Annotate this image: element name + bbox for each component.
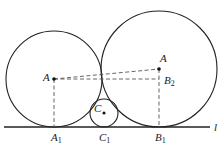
point-A: [52, 77, 56, 81]
label-A: A: [42, 71, 50, 83]
label-C: C: [94, 102, 102, 114]
label-A-right: A: [159, 52, 167, 64]
dashed-A-B: [54, 69, 159, 79]
tangent-circles-diagram: A A C A1 C1 B1 B2 l: [0, 0, 221, 145]
label-B2: B2: [164, 74, 175, 88]
label-l: l: [214, 121, 217, 133]
label-C1: C1: [99, 131, 110, 145]
label-A1: A1: [50, 131, 62, 145]
label-B1: B1: [155, 131, 166, 145]
point-B: [157, 67, 161, 71]
point-C: [103, 112, 106, 115]
